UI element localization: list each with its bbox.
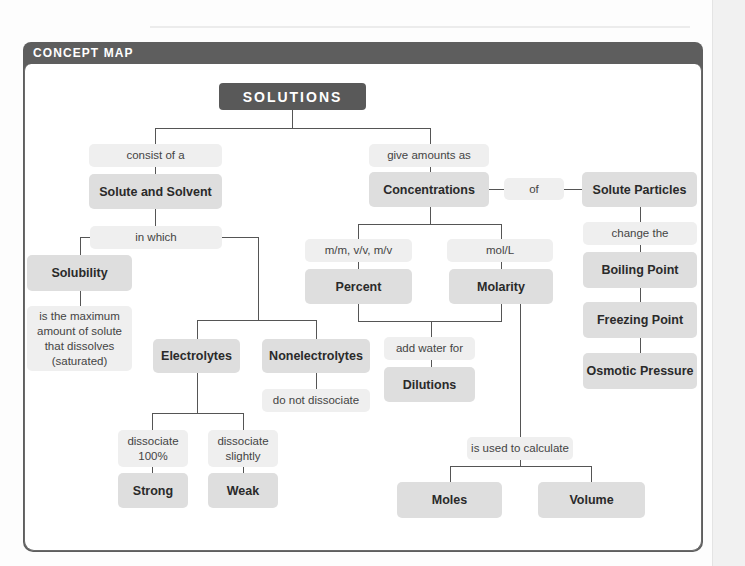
connector	[431, 321, 432, 337]
node-weak: Weak	[208, 473, 278, 508]
connector	[640, 338, 641, 353]
node-solute-solvent: Solute and Solvent	[89, 174, 222, 209]
node-dilutions: Dilutions	[384, 367, 475, 402]
connector	[430, 128, 431, 144]
node-molarity: Molarity	[449, 269, 553, 304]
connector	[501, 304, 502, 321]
connector	[80, 237, 90, 238]
node-osmotic-pressure: Osmotic Pressure	[583, 353, 697, 389]
connector	[358, 262, 359, 269]
node-electrolytes: Electrolytes	[153, 339, 240, 373]
connector	[640, 288, 641, 302]
connector	[152, 413, 153, 430]
connector	[450, 466, 592, 467]
connector	[358, 321, 502, 322]
link-percent-units: m/m, v/v, m/v	[305, 239, 412, 262]
connector	[640, 207, 641, 222]
connector	[222, 237, 258, 238]
connector	[501, 262, 502, 269]
connector	[155, 167, 156, 174]
link-change-the: change the	[583, 222, 697, 245]
connector	[80, 237, 81, 255]
connector	[591, 466, 592, 482]
solubility-definition: is the maximum amount of solute that dis…	[27, 306, 132, 371]
link-molarity-units: mol/L	[447, 239, 553, 262]
connector	[431, 360, 432, 367]
node-freezing-point: Freezing Point	[583, 302, 697, 338]
node-percent: Percent	[305, 269, 412, 304]
connector	[358, 304, 359, 321]
section-title: CONCEPT MAP	[33, 45, 134, 60]
connector	[197, 320, 317, 321]
node-volume: Volume	[538, 482, 645, 518]
connector	[316, 320, 317, 339]
connector	[520, 304, 521, 437]
node-solute-particles: Solute Particles	[582, 172, 697, 207]
node-solubility: Solubility	[27, 255, 132, 291]
connector	[564, 189, 582, 190]
connector	[450, 466, 451, 482]
link-dissociate-slightly: dissociate slightly	[208, 430, 278, 467]
connector	[155, 128, 156, 144]
link-do-not-dissociate: do not dissociate	[262, 389, 370, 412]
page-edge	[712, 0, 745, 566]
connector	[152, 413, 243, 414]
connector	[155, 209, 156, 226]
link-consist-of: consist of a	[89, 144, 222, 167]
link-of: of	[504, 178, 564, 200]
node-strong: Strong	[118, 473, 188, 508]
node-nonelectrolytes: Nonelectrolytes	[262, 339, 370, 373]
connector	[258, 237, 259, 320]
connector	[430, 207, 431, 224]
connector	[358, 224, 359, 239]
link-add-water: add water for	[384, 337, 475, 360]
connector	[316, 373, 317, 389]
connector	[501, 224, 502, 239]
bleed-through-text	[150, 26, 690, 28]
connector	[197, 373, 198, 413]
connector	[197, 320, 198, 339]
link-give-amounts: give amounts as	[369, 144, 489, 167]
node-moles: Moles	[397, 482, 502, 518]
link-dissociate-100: dissociate 100%	[118, 430, 188, 467]
connector	[489, 189, 504, 190]
root-node-solutions: SOLUTIONS	[219, 83, 366, 110]
connector	[358, 224, 502, 225]
link-used-to-calculate: is used to calculate	[467, 437, 573, 460]
connector	[292, 110, 293, 128]
node-boiling-point: Boiling Point	[583, 252, 697, 288]
connector	[640, 245, 641, 252]
link-in-which: in which	[90, 226, 222, 249]
connector	[155, 128, 431, 129]
node-concentrations: Concentrations	[369, 172, 489, 207]
connector	[243, 413, 244, 430]
connector	[80, 291, 81, 306]
